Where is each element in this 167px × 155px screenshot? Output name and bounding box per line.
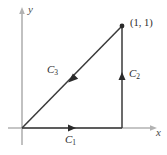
segment-c3-label: C3 (47, 64, 58, 75)
segment-c2-arrowhead (119, 72, 126, 80)
segment-c1-label: C1 (65, 134, 76, 145)
y-axis-label: y (28, 4, 33, 15)
x-axis-label: x (156, 127, 161, 138)
segment-c2-label-subscript: 2 (136, 72, 140, 81)
direction-arrowheads (68, 72, 126, 132)
point-coordinate-label: (1, 1) (130, 18, 153, 29)
segment-c3-arrowhead (68, 74, 78, 83)
triangular-path-figure: y x C1 C2 C3 (1, 1) (0, 0, 167, 155)
segment-c1-label-subscript: 1 (72, 138, 76, 147)
vertex-dot-1-1 (120, 24, 125, 29)
segment-c1-arrowhead (68, 125, 76, 132)
y-axis-arrowhead (19, 7, 25, 14)
segment-c2-label: C2 (129, 68, 140, 79)
segment-c3-label-subscript: 3 (54, 68, 58, 77)
